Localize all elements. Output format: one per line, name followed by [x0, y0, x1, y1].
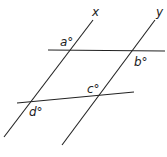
- diagram-canvas: x y a° b° c° d°: [0, 0, 167, 157]
- angle-b-label: b°: [134, 55, 148, 69]
- angle-d-label: d°: [29, 105, 43, 119]
- line-x: [4, 20, 93, 137]
- transversal-top: [48, 50, 165, 51]
- line-y: [62, 20, 155, 145]
- line-y-label: y: [155, 5, 164, 19]
- angle-a-label: a°: [60, 35, 73, 49]
- line-x-label: x: [91, 5, 100, 19]
- angle-c-label: c°: [87, 82, 100, 96]
